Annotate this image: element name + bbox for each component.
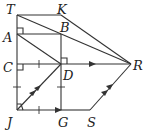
segment-AD <box>17 34 61 64</box>
label-C: C <box>3 60 13 75</box>
arrow-CR <box>89 61 96 67</box>
label-T: T <box>6 2 16 17</box>
double-arrow-JD <box>29 85 41 96</box>
label-R: R <box>132 58 143 73</box>
right-angle-A <box>17 28 23 34</box>
label-K: K <box>56 2 68 17</box>
segment-KR <box>61 15 131 64</box>
right-angle-C <box>17 64 23 70</box>
label-D: D <box>62 68 74 83</box>
label-A: A <box>2 30 12 45</box>
geometry-diagram: T K A B C D R J G S <box>0 0 145 133</box>
label-S: S <box>87 115 96 130</box>
label-G: G <box>58 115 68 130</box>
double-arrow-SR <box>101 84 113 96</box>
right-angle-D <box>61 58 67 64</box>
segment-TR <box>17 15 131 64</box>
label-J: J <box>4 115 13 130</box>
label-B: B <box>59 20 70 35</box>
